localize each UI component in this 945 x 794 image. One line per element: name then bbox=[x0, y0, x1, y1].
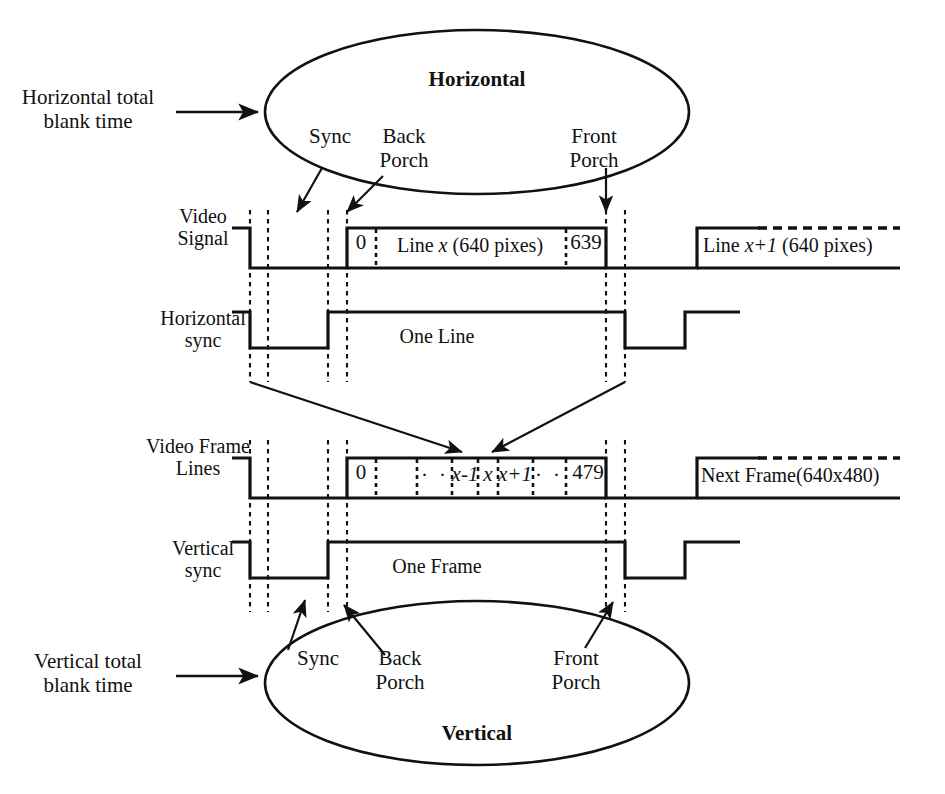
video-frame-lines-waveform bbox=[232, 458, 760, 498]
one-line-period-label: One Line bbox=[400, 325, 475, 347]
vertical-bubble-title: Vertical bbox=[442, 722, 512, 746]
horizontal-blank-time-label: Horizontal total blank time bbox=[22, 86, 154, 133]
video-signal-active-var: x bbox=[439, 234, 448, 256]
horizontal-sync-pointer bbox=[297, 168, 322, 212]
video-signal-next-pre: Line bbox=[703, 234, 745, 256]
horizontal-bubble-back-porch-label: Back Porch bbox=[380, 125, 429, 172]
video-frame-next-text: Next Frame(640x480) bbox=[701, 464, 879, 486]
vertical-bubble-front-porch-label: Front Porch bbox=[552, 647, 601, 694]
video-frame-end-index: 479 bbox=[572, 461, 604, 485]
vertical-blank-time-label: Vertical total blank time bbox=[34, 650, 142, 697]
vertical-sync-waveform bbox=[232, 542, 740, 578]
one-frame-period-label: One Frame bbox=[392, 555, 481, 577]
horizontal-bubble-sync-label: Sync bbox=[309, 125, 351, 149]
video-signal-active-text: Line x (640 pixes) bbox=[397, 234, 543, 256]
vertical-bubble-sync-label: Sync bbox=[297, 647, 339, 671]
horizontal-bubble-title: Horizontal bbox=[429, 68, 526, 92]
horizontal-sync-waveform bbox=[232, 312, 740, 348]
video-signal-row-label: Video Signal bbox=[177, 205, 228, 250]
vga-timing-diagram: Horizontal total blank time Horizontal S… bbox=[0, 0, 945, 794]
video-frame-dots-left: · · bbox=[421, 464, 449, 488]
video-signal-end-index: 639 bbox=[570, 231, 602, 255]
video-signal-active-pre: Line bbox=[397, 234, 439, 256]
horizontal-bubble-front-porch-label: Front Porch bbox=[570, 125, 619, 172]
vertical-bubble-back-porch-label: Back Porch bbox=[376, 647, 425, 694]
video-frame-start-index: 0 bbox=[356, 461, 367, 485]
video-signal-next-text: Line x+1 (640 pixes) bbox=[703, 234, 873, 256]
video-frame-line-minus-one: x-1 bbox=[452, 463, 479, 487]
vertical-sync-pointer bbox=[288, 600, 305, 650]
video-signal-active-post: (640 pixes) bbox=[448, 234, 544, 256]
video-signal-next-var: x+1 bbox=[745, 234, 777, 256]
video-frame-line-plus-one: x+1 bbox=[498, 463, 532, 487]
video-signal-next-post: (640 pixes) bbox=[777, 234, 873, 256]
horizontal-sync-row-label: Horizontal sync bbox=[160, 307, 246, 352]
vertical-front-porch-pointer bbox=[585, 602, 613, 648]
horizontal-bubble-ellipse bbox=[265, 30, 689, 194]
video-frame-line-x: x bbox=[483, 463, 492, 487]
video-signal-start-index: 0 bbox=[356, 231, 367, 255]
video-frame-lines-row-label: Video Frame Lines bbox=[146, 435, 250, 480]
connector-left bbox=[250, 382, 462, 452]
vertical-sync-row-label: Vertical sync bbox=[172, 537, 234, 582]
video-frame-dots-right: · · bbox=[535, 464, 563, 488]
